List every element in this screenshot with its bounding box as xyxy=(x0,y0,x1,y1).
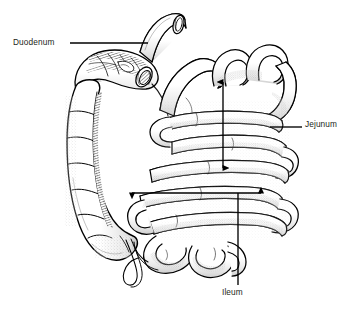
label-ileum: Ileum xyxy=(222,288,243,296)
label-jejunum: Jejunum xyxy=(305,120,337,128)
label-duodenum: Duodenum xyxy=(13,38,54,46)
